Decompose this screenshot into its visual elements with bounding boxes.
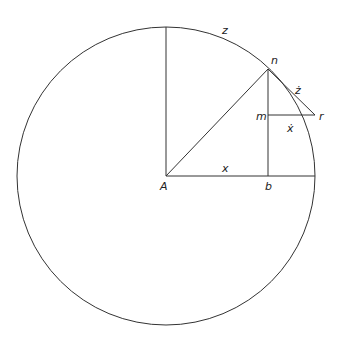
geometry-figure: z n ż m r ẋ x A b xyxy=(0,0,339,342)
label-A: A xyxy=(159,180,168,193)
label-z: z xyxy=(221,24,228,37)
label-r: r xyxy=(319,110,325,123)
tangent-n-r xyxy=(268,69,315,115)
label-x: x xyxy=(221,162,229,175)
label-m: m xyxy=(256,110,267,123)
label-n: n xyxy=(271,54,278,67)
label-b: b xyxy=(265,180,272,193)
radius-to-n xyxy=(166,69,268,176)
label-z-dot: ż xyxy=(294,84,301,97)
label-x-dot: ẋ xyxy=(286,122,294,135)
diagram-canvas: z n ż m r ẋ x A b xyxy=(0,0,339,342)
